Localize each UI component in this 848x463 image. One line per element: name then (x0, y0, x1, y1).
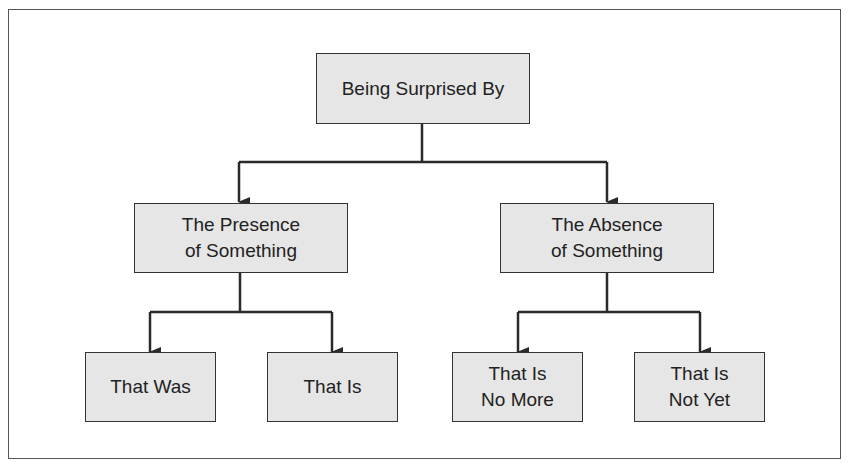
node-presence-label: The Presence of Something (182, 212, 300, 264)
node-that-was: That Was (85, 352, 216, 422)
node-that-is-no-more-label: That Is No More (481, 361, 554, 413)
node-that-is: That Is (267, 352, 398, 422)
node-presence: The Presence of Something (134, 203, 348, 273)
node-root-label: Being Surprised By (342, 76, 505, 102)
node-that-is-no-more: That Is No More (452, 352, 583, 422)
node-absence-label: The Absence of Something (551, 212, 663, 264)
node-that-is-not-yet-label: That Is Not Yet (669, 361, 730, 413)
node-absence: The Absence of Something (500, 203, 714, 273)
node-that-is-label: That Is (303, 374, 361, 400)
node-that-was-label: That Was (110, 374, 191, 400)
node-that-is-not-yet: That Is Not Yet (634, 352, 765, 422)
node-root: Being Surprised By (316, 53, 530, 124)
